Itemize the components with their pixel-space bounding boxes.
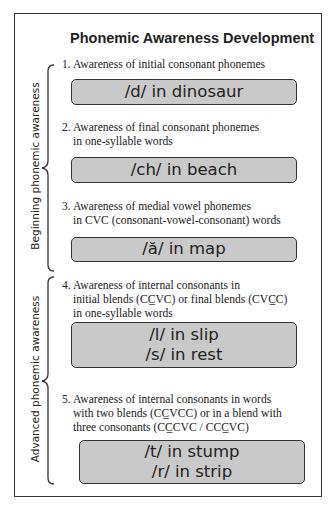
brace-beginning: [38, 63, 58, 273]
item-1-description: 1. Awareness of initial consonant phonem…: [62, 58, 322, 72]
group-label-advanced: Advanced phonemic awareness: [29, 289, 41, 469]
item-5-example-box: /t/ in stump /r/ in strip: [79, 440, 305, 484]
group-label-beginning: Beginning phonemic awareness: [29, 76, 41, 256]
item-3-description: 3. Awareness of medial vowel phonemes in…: [62, 200, 322, 228]
example-text: /l/ in slip: [72, 325, 296, 345]
item-5-description: 5. Awareness of internal consonants in w…: [62, 393, 322, 435]
example-text: /ch/ in beach: [72, 160, 296, 180]
item-4-example-box: /l/ in slip /s/ in rest: [71, 322, 297, 368]
example-text: /t/ in stump: [80, 442, 304, 462]
item-2-description: 2. Awareness of final consonant phonemes…: [62, 121, 322, 149]
example-text: /r/ in strip: [80, 462, 304, 482]
example-text: /d/ in dinosaur: [72, 82, 296, 102]
item-3-example-box: /ă/ in map: [71, 237, 297, 262]
item-1-example-box: /d/ in dinosaur: [71, 79, 297, 105]
item-2-example-box: /ch/ in beach: [71, 157, 297, 183]
diagram-title: Phonemic Awareness Development: [70, 30, 320, 46]
brace-advanced: [38, 275, 58, 487]
item-4-description: 4. Awareness of internal consonants in i…: [62, 279, 322, 321]
example-text: /s/ in rest: [72, 345, 296, 365]
example-text: /ă/ in map: [72, 239, 296, 259]
